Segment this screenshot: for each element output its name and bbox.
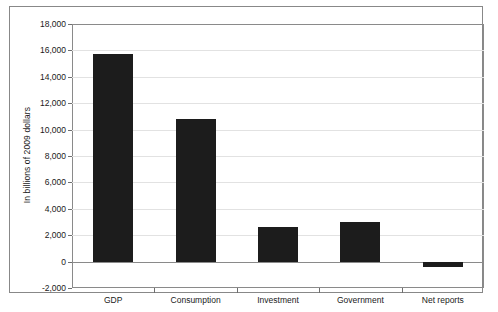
y-tick-mark xyxy=(68,156,72,157)
y-tick-mark xyxy=(68,103,72,104)
y-tick-label: 0 xyxy=(61,257,66,267)
gridline xyxy=(72,209,484,210)
plot-area: 18,00016,00014,00012,00010,0008,0006,000… xyxy=(72,24,484,288)
bar xyxy=(93,54,133,262)
y-tick-mark xyxy=(68,50,72,51)
bar-chart-figure: In billions of 2009 dollars 18,00016,000… xyxy=(0,0,498,312)
y-axis-title: In billions of 2009 dollars xyxy=(22,55,32,255)
y-tick-mark xyxy=(68,130,72,131)
gridline xyxy=(72,130,484,131)
plot-border-top xyxy=(72,24,484,25)
gridline xyxy=(72,50,484,51)
y-tick-label: 2,000 xyxy=(45,230,66,240)
x-axis-label: Net reports xyxy=(422,295,464,305)
x-axis-label: GDP xyxy=(104,295,122,305)
y-tick-label: 8,000 xyxy=(45,151,66,161)
gridline xyxy=(72,156,484,157)
y-tick-mark xyxy=(68,209,72,210)
x-axis-label: Consumption xyxy=(171,295,221,305)
plot-border-bottom xyxy=(72,287,484,288)
y-tick-label: 10,000 xyxy=(40,125,66,135)
bar xyxy=(258,227,298,261)
gridline xyxy=(72,103,484,104)
bar xyxy=(176,119,216,262)
gridline xyxy=(72,77,484,78)
bar xyxy=(423,262,463,268)
y-tick-label: 6,000 xyxy=(45,177,66,187)
bar xyxy=(340,222,380,262)
y-tick-label: -2,000 xyxy=(42,283,66,293)
x-axis-label: Government xyxy=(337,295,384,305)
y-tick-label: 4,000 xyxy=(45,204,66,214)
y-tick-mark xyxy=(68,24,72,25)
y-tick-mark xyxy=(68,182,72,183)
x-axis-label: Investment xyxy=(257,295,299,305)
y-tick-mark xyxy=(68,235,72,236)
y-tick-label: 12,000 xyxy=(40,98,66,108)
y-tick-label: 16,000 xyxy=(40,45,66,55)
x-axis-labels: GDPConsumptionInvestmentGovernmentNet re… xyxy=(72,289,484,311)
y-tick-label: 14,000 xyxy=(40,72,66,82)
gridline xyxy=(72,182,484,183)
y-tick-label: 18,000 xyxy=(40,19,66,29)
y-tick-mark xyxy=(68,77,72,78)
